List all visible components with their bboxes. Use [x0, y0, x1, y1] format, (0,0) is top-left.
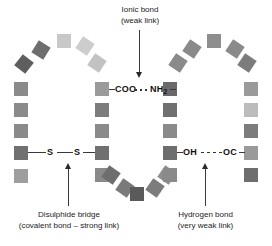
- hydrogen-right-stub: [239, 152, 245, 153]
- amino-acid-residue: [14, 82, 28, 96]
- disulphide-bond-annotation: Disulphide bridge (covalent bond – stron…: [2, 209, 136, 231]
- ionic-bond-label-line2: (weak link): [106, 15, 174, 26]
- disulphide-left-stub: [28, 152, 46, 153]
- amino-acid-residue: [31, 40, 50, 59]
- amino-acid-residue: [75, 36, 94, 55]
- ionic-bond-label-line1: Ionic bond: [106, 4, 174, 15]
- hydrogen-right-group: OC: [223, 147, 237, 157]
- amino-acid-residue: [95, 146, 109, 160]
- hydrogen-dashed-connector: [201, 152, 222, 153]
- disulphide-arrowhead: [65, 163, 71, 169]
- amino-acid-residue: [14, 103, 28, 117]
- amino-acid-residue: [57, 34, 71, 48]
- amino-acid-residue: [14, 169, 28, 183]
- amino-acid-residue: [145, 178, 164, 197]
- amino-acid-residue: [244, 124, 258, 138]
- ionic-bond-left-group: COO: [115, 84, 136, 94]
- amino-acid-residue: [244, 168, 258, 182]
- disulphide-left-group: S: [47, 147, 53, 157]
- amino-acid-residue: [14, 54, 34, 74]
- amino-acid-residue: [244, 103, 258, 117]
- amino-acid-residue: [244, 82, 258, 96]
- amino-acid-residue: [163, 168, 177, 182]
- amino-acid-residue: [244, 146, 258, 160]
- disulphide-arrow-shaft: [68, 168, 69, 206]
- ionic-bond-annotation: Ionic bond (weak link): [106, 4, 174, 26]
- amino-acid-residue: [130, 187, 144, 201]
- amino-acid-residue: [182, 39, 201, 58]
- ionic-bond-right-stub: [170, 89, 176, 90]
- disulphide-right-stub: [83, 152, 95, 153]
- hydrogen-arrow-shaft: [205, 168, 206, 206]
- hydrogen-bond-annotation: Hydrogen bond (very weak link): [152, 209, 259, 231]
- amino-acid-residue: [95, 124, 109, 138]
- amino-acid-residue: [163, 124, 177, 138]
- amino-acid-residue: [95, 103, 109, 117]
- ionic-bond-arrow-shaft: [139, 30, 140, 74]
- amino-acid-residue: [237, 53, 256, 72]
- hydrogen-left-group: OH: [183, 147, 197, 157]
- amino-acid-residue: [168, 53, 187, 72]
- disulphide-connector: [57, 152, 73, 153]
- ionic-bond-arrowhead: [136, 72, 142, 78]
- disulphide-label-line2: (covalent bond – strong link): [2, 220, 136, 231]
- hydrogen-label-line2: (very weak link): [152, 220, 259, 231]
- amino-acid-residue: [163, 146, 177, 160]
- protein-bonds-diagram: Ionic bond (weak link) COO NH2 S S Disul…: [0, 0, 272, 246]
- hydrogen-arrowhead: [202, 163, 208, 169]
- ionic-bond-dotted-connector: [135, 89, 149, 91]
- disulphide-label-line1: Disulphide bridge: [2, 209, 136, 220]
- amino-acid-residue: [95, 82, 109, 96]
- amino-acid-residue: [207, 34, 221, 48]
- amino-acid-residue: [87, 53, 106, 72]
- amino-acid-residue: [163, 103, 177, 117]
- hydrogen-label-line1: Hydrogen bond: [152, 209, 259, 220]
- amino-acid-residue: [14, 124, 28, 138]
- disulphide-right-group: S: [74, 147, 80, 157]
- ionic-bond-right-group: NH2: [150, 84, 167, 95]
- amino-acid-residue: [14, 146, 28, 160]
